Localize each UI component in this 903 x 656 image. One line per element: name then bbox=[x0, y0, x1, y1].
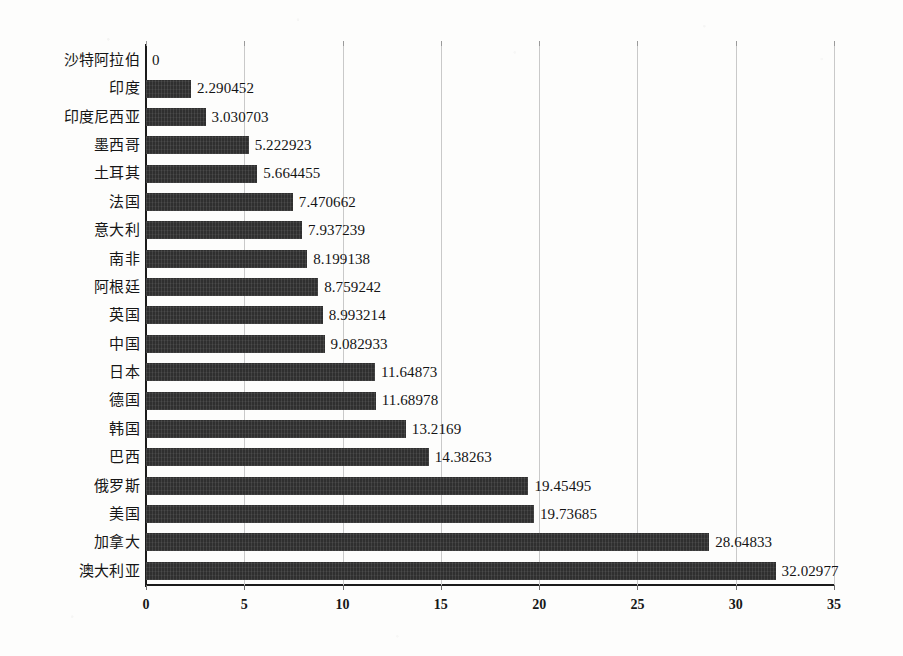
x-tick-mark bbox=[343, 585, 344, 590]
x-tick-mark-top bbox=[244, 41, 245, 46]
bar-row: 德国11.68978 bbox=[146, 386, 834, 414]
gridline bbox=[834, 46, 835, 585]
x-tick-mark-top bbox=[343, 41, 344, 46]
x-tick-label: 35 bbox=[804, 597, 864, 613]
category-label: 巴西 bbox=[0, 443, 140, 471]
value-label: 5.664455 bbox=[263, 159, 320, 187]
category-label: 意大利 bbox=[0, 216, 140, 244]
bar[interactable] bbox=[146, 562, 776, 580]
bar-row: 俄罗斯19.45495 bbox=[146, 472, 834, 500]
bar-row: 印度尼西亚3.030703 bbox=[146, 103, 834, 131]
x-tick-mark-top bbox=[146, 41, 147, 46]
bar[interactable] bbox=[146, 221, 302, 239]
bar[interactable] bbox=[146, 306, 323, 324]
value-label: 19.45495 bbox=[534, 472, 591, 500]
bar-row: 加拿大28.64833 bbox=[146, 528, 834, 556]
category-label: 法国 bbox=[0, 188, 140, 216]
x-tick-label: 30 bbox=[706, 597, 766, 613]
value-label: 0 bbox=[152, 46, 160, 74]
category-label: 英国 bbox=[0, 301, 140, 329]
bar-row: 中国9.082933 bbox=[146, 330, 834, 358]
value-label: 7.470662 bbox=[299, 188, 356, 216]
bar-row: 土耳其5.664455 bbox=[146, 159, 834, 187]
category-label: 阿根廷 bbox=[0, 273, 140, 301]
value-label: 8.759242 bbox=[324, 273, 381, 301]
x-tick-mark-top bbox=[539, 41, 540, 46]
bar-row: 英国8.993214 bbox=[146, 301, 834, 329]
bar-row: 日本11.64873 bbox=[146, 358, 834, 386]
category-label: 土耳其 bbox=[0, 159, 140, 187]
bar-row: 法国7.470662 bbox=[146, 188, 834, 216]
bar[interactable] bbox=[146, 335, 325, 353]
category-label: 沙特阿拉伯 bbox=[0, 46, 140, 74]
bar[interactable] bbox=[146, 250, 307, 268]
category-label: 加拿大 bbox=[0, 528, 140, 556]
x-tick-label: 0 bbox=[116, 597, 176, 613]
bar-chart: 沙特阿拉伯0印度2.290452印度尼西亚3.030703墨西哥5.222923… bbox=[0, 0, 903, 656]
x-tick-mark bbox=[834, 585, 835, 590]
value-label: 19.73685 bbox=[540, 500, 597, 528]
bar[interactable] bbox=[146, 363, 375, 381]
category-label: 德国 bbox=[0, 386, 140, 414]
bar[interactable] bbox=[146, 80, 191, 98]
value-label: 14.38263 bbox=[435, 443, 492, 471]
bar[interactable] bbox=[146, 392, 376, 410]
value-label: 13.2169 bbox=[412, 415, 461, 443]
category-label: 日本 bbox=[0, 358, 140, 386]
value-label: 32.02977 bbox=[782, 557, 839, 585]
value-label: 2.290452 bbox=[197, 74, 254, 102]
bar[interactable] bbox=[146, 420, 406, 438]
x-tick-label: 10 bbox=[313, 597, 373, 613]
value-label: 3.030703 bbox=[212, 103, 269, 131]
category-label: 印度 bbox=[0, 74, 140, 102]
category-label: 中国 bbox=[0, 330, 140, 358]
bar[interactable] bbox=[146, 533, 709, 551]
bar-row: 美国19.73685 bbox=[146, 500, 834, 528]
x-tick-mark-top bbox=[834, 41, 835, 46]
bar-row: 韩国13.2169 bbox=[146, 415, 834, 443]
category-label: 南非 bbox=[0, 245, 140, 273]
x-tick-mark bbox=[146, 585, 147, 590]
x-tick-mark bbox=[736, 585, 737, 590]
category-label: 美国 bbox=[0, 500, 140, 528]
bar[interactable] bbox=[146, 165, 257, 183]
bar[interactable] bbox=[146, 505, 534, 523]
bar[interactable] bbox=[146, 193, 293, 211]
bar-row: 印度2.290452 bbox=[146, 74, 834, 102]
bar[interactable] bbox=[146, 278, 318, 296]
bar[interactable] bbox=[146, 477, 528, 495]
x-tick-mark bbox=[441, 585, 442, 590]
x-tick-label: 15 bbox=[411, 597, 471, 613]
value-label: 11.68978 bbox=[382, 386, 439, 414]
x-tick-label: 5 bbox=[214, 597, 274, 613]
value-label: 5.222923 bbox=[255, 131, 312, 159]
category-label: 澳大利亚 bbox=[0, 557, 140, 585]
bar-row: 澳大利亚32.02977 bbox=[146, 557, 834, 585]
value-label: 11.64873 bbox=[381, 358, 438, 386]
category-label: 俄罗斯 bbox=[0, 472, 140, 500]
value-label: 8.993214 bbox=[329, 301, 386, 329]
x-tick-mark-top bbox=[637, 41, 638, 46]
value-label: 9.082933 bbox=[331, 330, 388, 358]
category-label: 印度尼西亚 bbox=[0, 103, 140, 131]
x-tick-label: 25 bbox=[607, 597, 667, 613]
value-label: 8.199138 bbox=[313, 245, 370, 273]
x-tick-mark bbox=[244, 585, 245, 590]
x-tick-mark bbox=[539, 585, 540, 590]
category-label: 墨西哥 bbox=[0, 131, 140, 159]
bar[interactable] bbox=[146, 136, 249, 154]
bar-row: 南非8.199138 bbox=[146, 245, 834, 273]
bar-row: 巴西14.38263 bbox=[146, 443, 834, 471]
x-tick-label: 20 bbox=[509, 597, 569, 613]
bar[interactable] bbox=[146, 108, 206, 126]
x-tick-mark-top bbox=[736, 41, 737, 46]
value-label: 28.64833 bbox=[715, 528, 772, 556]
value-label: 7.937239 bbox=[308, 216, 365, 244]
plot-area: 沙特阿拉伯0印度2.290452印度尼西亚3.030703墨西哥5.222923… bbox=[146, 46, 834, 585]
bar-row: 墨西哥5.222923 bbox=[146, 131, 834, 159]
bar[interactable] bbox=[146, 448, 429, 466]
x-tick-mark-top bbox=[441, 41, 442, 46]
bar-row: 阿根廷8.759242 bbox=[146, 273, 834, 301]
x-tick-mark bbox=[637, 585, 638, 590]
bar-row: 意大利7.937239 bbox=[146, 216, 834, 244]
